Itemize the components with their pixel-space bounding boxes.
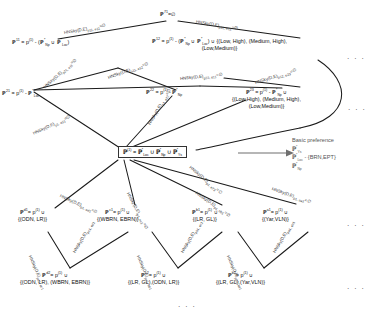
node-pc1[interactable]: ℙc1= p(1) ∪{(WBRN, EBRN)} <box>97 209 139 223</box>
edge-pa1-pb2 <box>264 232 308 268</box>
dots-bottom: · · · <box>178 303 196 310</box>
basic-preference-item-1: ℙ*Loc - {BRN,EPT} <box>292 153 336 162</box>
edge-root-p21 <box>34 92 120 148</box>
dots-r2: · · · <box>348 106 366 113</box>
basic-preference-panel: Basic preference ℙ*Ys ℙ*Loc - {BRN,EPT} … <box>292 136 336 170</box>
node-p71[interactable]: ℙ71=∅ <box>160 11 175 18</box>
edge-root-pa1 <box>134 160 296 204</box>
dots-r4: · · · <box>347 285 365 292</box>
dots-r3: · · · <box>347 222 365 229</box>
edge-root-pd1 <box>55 160 118 208</box>
edge-cross-p23 <box>200 86 282 88</box>
node-pd1[interactable]: ℙd1= p(1) ∪{(ODN, LR)} <box>18 209 47 223</box>
basic-preference-item-2: ℙ*Np <box>292 162 336 171</box>
basic-preference-item-0: ℙ*Ys <box>292 145 336 154</box>
node-p21[interactable]: ℙ21 = p(1) - ℙ*Loc <box>2 90 39 97</box>
arrow-root-to-basic <box>238 150 294 157</box>
diagram-canvas: ℙ71=∅ ℙ11 = p(1) - (ℙ*Np ∪ ℙ*Loc) ℙ12 = … <box>0 0 376 316</box>
node-pa1[interactable]: ℙa1= p(1) ∪{(Yar,VLN)} <box>262 209 289 223</box>
edge-right-arc <box>300 60 342 128</box>
basic-preference-heading: Basic preference <box>292 136 336 145</box>
edge-pd1-pd2 <box>48 232 70 268</box>
edge-pb1-pb2 <box>238 232 264 268</box>
edge-pc1-pc2 <box>152 232 178 268</box>
node-p11[interactable]: ℙ11 = p(1) - (ℙ*Np ∪ ℙ*Loc) <box>12 39 69 46</box>
node-root-box[interactable]: ℙ(1) = ℙ*Loc ∪ ℙ*Np ∪ ℙ*Ys <box>118 146 187 158</box>
node-p23[interactable]: ℙ23 = p(1) - ℙ*Np ∪{(Low,High), (Medium,… <box>232 89 301 110</box>
node-pd2[interactable]: ℙd2= p(1) ∪{(ODN, LR), (WBRN, EBRN)} <box>20 272 90 286</box>
dots-r1: · · · <box>347 55 365 62</box>
node-p12[interactable]: ℙ12 = p(1) - (ℙ*Np ∪ ℙ*Loc) ∪ {(Low, Hig… <box>152 38 287 52</box>
edge-arc-to-root <box>196 128 300 150</box>
